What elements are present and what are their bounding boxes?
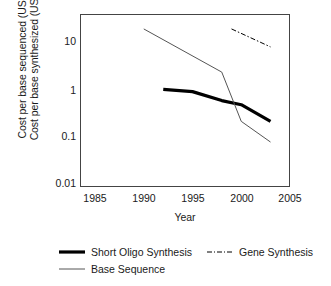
legend-label-gene-synthesis: Gene Synthesis <box>239 246 313 258</box>
series-line-short-oligo-synthesis <box>163 89 270 121</box>
legend-item-short-oligo-synthesis: Short Oligo Synthesis <box>58 246 192 258</box>
series-line-gene-synthesis <box>232 29 271 47</box>
legend-item-gene-synthesis: Gene Synthesis <box>206 246 313 258</box>
legend-label-base-sequence: Base Sequence <box>91 263 165 275</box>
legend-swatch-dash-dot <box>206 247 234 257</box>
legend-label-short-oligo-synthesis: Short Oligo Synthesis <box>91 246 192 258</box>
series-line-base-sequence <box>144 29 271 142</box>
legend-swatch-thick-solid <box>58 247 86 257</box>
data-series-layer <box>144 29 271 142</box>
chart-legend: Short Oligo Synthesis Gene Synthesis Bas… <box>0 243 331 277</box>
plot-frame <box>81 15 290 187</box>
legend-swatch-thin-solid <box>58 264 86 274</box>
chart-figure: Cost per base sequenced (USD) Cost per b… <box>0 0 331 286</box>
legend-item-base-sequence: Base Sequence <box>58 263 165 275</box>
